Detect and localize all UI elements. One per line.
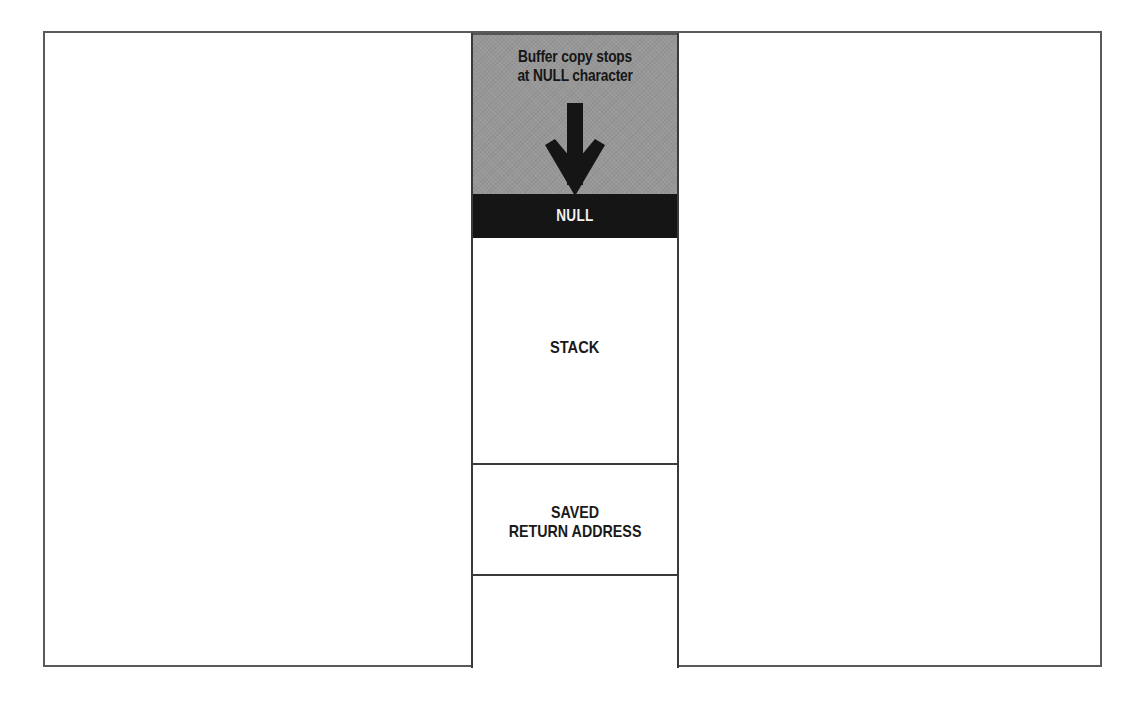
saved-return-address-cell: SAVED RETURN ADDRESS [473,465,677,576]
saved-return-address-label: SAVED RETURN ADDRESS [509,503,642,541]
return-label-line-1: SAVED [509,503,642,522]
stack-label: STACK [550,338,599,358]
stack-cell: STACK [473,238,677,465]
null-terminator-cell: NULL [473,194,677,238]
memory-column: Buffer copy stops at NULL character NULL… [471,33,679,668]
return-label-line-2: RETURN ADDRESS [509,522,642,541]
caption-line-1: Buffer copy stops [517,47,632,66]
null-label: NULL [556,207,593,225]
empty-cell [473,576,677,668]
arrow-down-icon [545,103,605,196]
caption-line-2: at NULL character [517,66,632,85]
overflow-region: Buffer copy stops at NULL character [473,33,677,194]
overflow-caption: Buffer copy stops at NULL character [517,47,632,85]
